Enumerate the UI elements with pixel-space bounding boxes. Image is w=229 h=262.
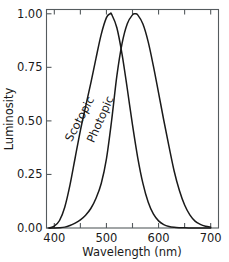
x-axis-tick-labels: 400500600700	[43, 231, 221, 245]
y-axis-ticks	[47, 14, 52, 228]
x-tick-label-400: 400	[43, 231, 65, 245]
y-axis-title: Luminosity	[2, 87, 16, 150]
y-tick-label-0.75: 0.75	[17, 60, 43, 74]
y-axis-tick-labels: 0.000.250.500.751.00	[17, 7, 43, 235]
y-tick-label-1.00: 1.00	[17, 7, 43, 21]
x-tick-label-700: 700	[200, 231, 222, 245]
luminosity-chart-figure: 400500600700 0.000.250.500.751.00 Scotop…	[0, 0, 229, 262]
x-axis-title: Wavelength (nm)	[82, 245, 181, 259]
y-tick-label-0.25: 0.25	[17, 167, 43, 181]
y-tick-label-0.50: 0.50	[17, 114, 43, 128]
x-tick-label-600: 600	[148, 231, 170, 245]
x-tick-label-500: 500	[95, 231, 117, 245]
y-tick-label-0.00: 0.00	[17, 221, 43, 235]
curve-annotations: ScotopicPhotopic	[62, 94, 117, 145]
chart-canvas: 400500600700 0.000.250.500.751.00 Scotop…	[0, 0, 229, 262]
